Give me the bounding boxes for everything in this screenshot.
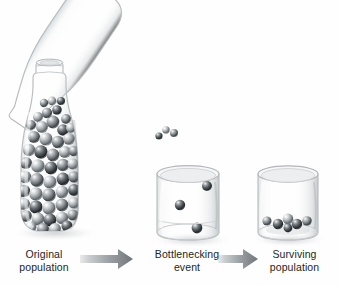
marble-falling xyxy=(155,132,162,139)
surviving-beaker-rim-inner xyxy=(261,169,314,183)
marble-surviving xyxy=(284,224,293,233)
marble-surviving xyxy=(273,219,283,229)
marble-surviving xyxy=(302,216,312,226)
surviving-beaker xyxy=(258,166,318,240)
bottle-mouth-inner xyxy=(40,61,59,65)
bottlenecking-beaker xyxy=(157,166,219,240)
marble-surviving xyxy=(262,216,271,225)
marble-in-beaker xyxy=(175,200,185,210)
arrow-original-to-bottleneck xyxy=(80,249,133,269)
bottlenecking-beaker-rim-inner xyxy=(161,168,216,182)
marble-falling xyxy=(170,129,178,137)
caption-original-population: Original population xyxy=(4,248,84,273)
marble-surviving xyxy=(283,214,294,225)
bottleneck-diagram: Original population Bottlenecking event … xyxy=(0,0,339,285)
falling-marbles-stream xyxy=(155,126,178,139)
diagram-canvas xyxy=(0,0,339,285)
caption-surviving-population: Surviving population xyxy=(252,248,337,273)
marble-in-beaker xyxy=(202,181,212,191)
marble-falling xyxy=(162,126,169,133)
marble-surviving xyxy=(292,219,302,229)
caption-bottlenecking-event: Bottlenecking event xyxy=(137,248,237,273)
